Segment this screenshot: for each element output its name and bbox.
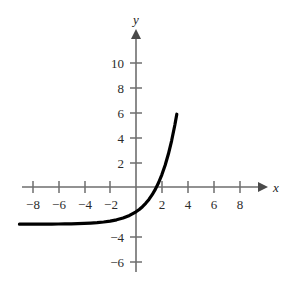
y-tick-label-8: 8: [118, 81, 125, 96]
x-tick-label--2: −2: [104, 197, 118, 212]
x-tick-label--4: −4: [78, 197, 92, 212]
x-tick-label--8: −8: [26, 197, 40, 212]
y-tick-label-4: 4: [118, 131, 125, 146]
x-tick-label-6: 6: [211, 197, 218, 212]
y-tick-label-10: 10: [111, 56, 124, 71]
x-tick-label-8: 8: [237, 197, 244, 212]
y-tick-label--4: −4: [110, 230, 124, 245]
figure-container: −8 −6 −4 −2 2 4 6 8 10 8 6 4 2 −4 −6 x y: [0, 0, 292, 289]
exponential-curve: [19, 114, 176, 224]
exponential-graph: −8 −6 −4 −2 2 4 6 8 10 8 6 4 2 −4 −6 x y: [0, 0, 292, 289]
y-axis-label: y: [131, 12, 139, 27]
x-tick-label--6: −6: [52, 197, 66, 212]
x-axis-label: x: [272, 180, 279, 195]
y-tick-label-6: 6: [118, 106, 125, 121]
y-tick-label--6: −6: [110, 255, 124, 270]
x-axis-arrowhead: [258, 182, 268, 192]
x-tick-label-4: 4: [185, 197, 192, 212]
x-tick-label-2: 2: [159, 197, 166, 212]
y-tick-label-2: 2: [118, 156, 125, 171]
y-axis-arrowhead: [131, 29, 141, 39]
